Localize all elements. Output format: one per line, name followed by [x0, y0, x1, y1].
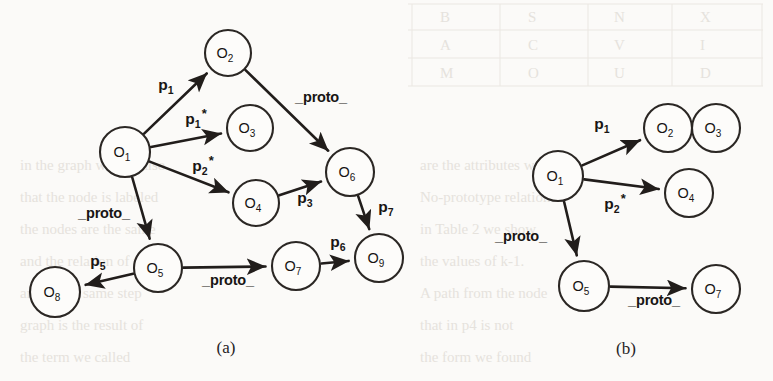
- svg-text:O: O: [528, 65, 539, 81]
- node-label-text: O: [678, 185, 689, 201]
- node-label-text: O: [217, 45, 228, 61]
- edge-label-subscript: 1: [168, 83, 174, 95]
- edge-label-subscript: 5: [100, 259, 106, 271]
- edge-label-subscript: 3: [307, 196, 313, 208]
- node-label-subscript: 2: [228, 52, 234, 63]
- node-o5[interactable]: O5: [559, 261, 609, 311]
- edge-o5-to-o7: [183, 266, 265, 267]
- svg-text:I: I: [700, 37, 705, 53]
- edge-label-o1-o5: _proto_: [494, 228, 548, 244]
- node-label-text: O: [114, 144, 125, 160]
- svg-text:A path from the node: A path from the node: [420, 285, 548, 301]
- edge-label-subscript: 1: [604, 122, 610, 134]
- node-o9[interactable]: O9: [355, 234, 403, 282]
- diagram-b: O1O2O3O4O5O7 p1p2*_proto__proto_ (b): [494, 104, 740, 358]
- page-bleed-through: B S N X A C V I M O U D in the graph we …: [20, 4, 763, 365]
- node-o1[interactable]: O1: [533, 151, 583, 201]
- edge-label-text: p: [604, 195, 613, 212]
- node-o8[interactable]: O8: [30, 267, 80, 317]
- node-label-text: O: [147, 260, 158, 276]
- edge-label-text: p: [330, 233, 339, 250]
- node-label-subscript: 5: [584, 285, 590, 296]
- edge-label-star: *: [202, 106, 208, 121]
- svg-text:D: D: [700, 65, 711, 81]
- node-label-text: O: [368, 250, 379, 266]
- node-o3[interactable]: O3: [227, 105, 273, 151]
- node-label-text: O: [657, 120, 668, 136]
- node-label-text: O: [547, 168, 558, 184]
- node-label-text: O: [573, 278, 584, 294]
- node-o6[interactable]: O6: [326, 148, 374, 196]
- node-label-subscript: 2: [668, 127, 674, 138]
- node-o5[interactable]: O5: [134, 244, 182, 292]
- svg-text:the form we found: the form we found: [420, 349, 532, 365]
- svg-text:X: X: [700, 9, 711, 25]
- svg-text:the values of k-1.: the values of k-1.: [420, 253, 524, 269]
- svg-text:B: B: [440, 9, 450, 25]
- caption-a: (a): [217, 338, 236, 357]
- edge-label-o7-o9: p6: [330, 233, 345, 252]
- node-label-text: O: [705, 281, 716, 297]
- node-o2[interactable]: O2: [205, 30, 251, 76]
- node-label-subscript: 9: [379, 257, 385, 268]
- edge-o1-to-o3: [151, 134, 221, 147]
- node-o1[interactable]: O1: [100, 127, 150, 177]
- edge-label-o1-o5: _proto_: [77, 205, 131, 221]
- svg-text:and the relation of the: and the relation of the: [20, 253, 152, 269]
- edge-o7-to-o9: [321, 261, 348, 264]
- node-label-subscript: 7: [296, 265, 302, 276]
- edge-label-text: _proto_: [627, 292, 681, 308]
- svg-text:No-prototype relation: No-prototype relation: [420, 189, 551, 205]
- node-o4[interactable]: O4: [665, 169, 713, 217]
- svg-text:that in p4 is not: that in p4 is not: [420, 317, 514, 333]
- edge-label-o1-o4: p2*: [192, 153, 214, 176]
- edge-label-subscript: 2: [614, 202, 620, 214]
- edge-o1-to-o4: [584, 179, 658, 189]
- edge-label-o1-o2: p1: [158, 76, 173, 95]
- edge-label-o1-o4: p2*: [604, 191, 626, 214]
- edge-label-text: p: [158, 76, 167, 93]
- edge-label-star: *: [209, 153, 215, 168]
- edge-label-text: p: [90, 252, 99, 269]
- edge-label-o4-o6: p3: [297, 189, 312, 208]
- edge-label-o5-o7: _proto_: [627, 292, 681, 308]
- edge-label-text: p: [192, 157, 201, 174]
- node-label-text: O: [285, 258, 296, 274]
- edge-label-subscript: 1: [195, 117, 201, 129]
- edge-label-o1-o3: p1*: [185, 106, 207, 129]
- edge-label-text: p: [378, 198, 387, 215]
- svg-text:C: C: [528, 37, 538, 53]
- node-label-subscript: 1: [125, 151, 131, 162]
- edge-label-subscript: 7: [388, 205, 394, 217]
- node-label-text: O: [44, 284, 55, 300]
- svg-text:the nodes are the same: the nodes are the same: [20, 221, 156, 237]
- edge-o1-to-o4: [150, 162, 229, 193]
- svg-text:are the attributes we: are the attributes we: [420, 157, 542, 173]
- edge-label-text: p: [297, 189, 306, 206]
- svg-text:A: A: [440, 37, 451, 53]
- edge-label-subscript: 6: [340, 240, 346, 252]
- node-label-subscript: 4: [256, 202, 262, 213]
- svg-text:N: N: [614, 9, 625, 25]
- node-o4[interactable]: O4: [233, 180, 279, 226]
- edge-o1-to-o5: [564, 202, 577, 256]
- edge-label-text: _proto_: [294, 89, 348, 105]
- node-o7[interactable]: O7: [272, 242, 320, 290]
- node-o3[interactable]: O3: [692, 104, 740, 152]
- node-o7[interactable]: O7: [692, 265, 740, 313]
- edge-label-o1-o2: p1: [594, 115, 609, 134]
- node-label-subscript: 1: [558, 175, 564, 186]
- edge-label-text: p: [594, 115, 603, 132]
- node-label-subscript: 7: [716, 288, 722, 299]
- diagram-b-nodes: O1O2O3O4O5O7: [533, 104, 740, 313]
- node-label-subscript: 3: [250, 127, 256, 138]
- node-label-text: O: [705, 120, 716, 136]
- svg-text:the term we called: the term we called: [20, 349, 131, 365]
- bleed-table: B S N X A C V I M O U D: [408, 4, 763, 86]
- edge-label-text: _proto_: [494, 228, 548, 244]
- edge-label-text: _proto_: [77, 205, 131, 221]
- node-label-text: O: [245, 195, 256, 211]
- figure-container: B S N X A C V I M O U D in the graph we …: [0, 0, 773, 381]
- node-o2[interactable]: O2: [644, 104, 692, 152]
- svg-text:V: V: [614, 37, 625, 53]
